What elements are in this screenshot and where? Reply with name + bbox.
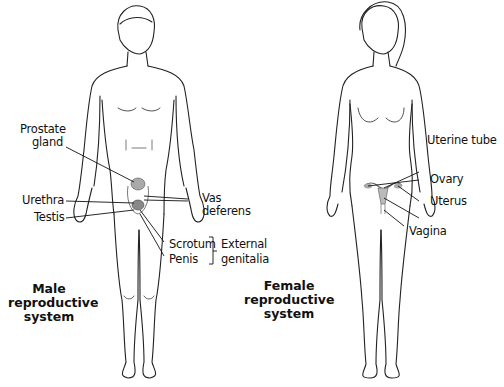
label-penis: Penis <box>169 253 198 266</box>
label-urethra: Urethra <box>22 194 64 207</box>
male-figure-outline <box>74 6 204 378</box>
label-uterus: Uterus <box>430 195 467 208</box>
label-scrotum: Scrotum <box>169 238 216 251</box>
body-outlines <box>0 0 504 387</box>
label-vagina: Vagina <box>409 225 447 238</box>
label-uterine-tube: Uterine tube <box>427 134 497 147</box>
label-external-genitalia-line1: External <box>221 238 267 251</box>
male-system-title: Male reproductive system <box>8 282 90 324</box>
female-system-title: Female reproductive system <box>244 279 334 321</box>
label-testis: Testis <box>34 211 65 224</box>
label-external-genitalia-line2: genitalia <box>221 253 269 266</box>
label-vas-deferens-line2: deferens <box>202 205 251 218</box>
label-ovary: Ovary <box>430 173 463 186</box>
label-prostate-gland-line2: gland <box>32 136 63 149</box>
female-organs <box>364 183 402 214</box>
